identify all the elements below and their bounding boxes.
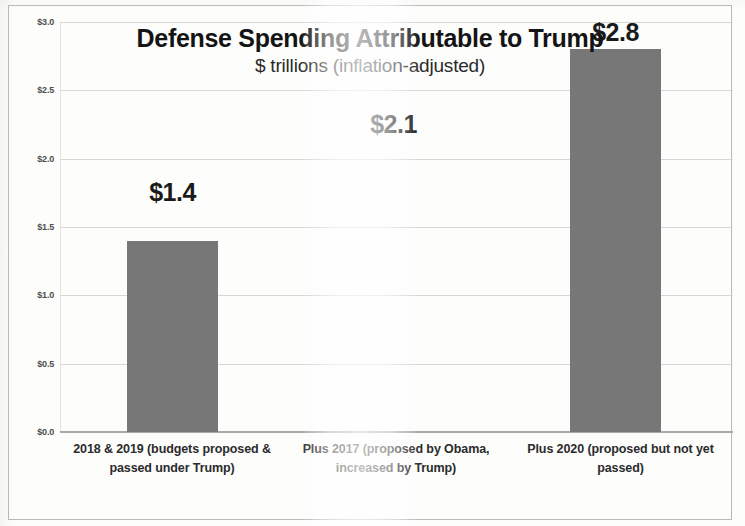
- y-tick-label: $2.5: [10, 85, 54, 95]
- category-label-plus-2020: Plus 2020 (proposed but not yet passed): [508, 440, 733, 478]
- y-axis-tick-labels: $3.0 $2.5 $2.0 $1.5 $1.0 $0.5 $0.0: [4, 22, 54, 432]
- y-tick-label: $1.5: [10, 222, 54, 232]
- bar-plus-2020[interactable]: [570, 49, 661, 432]
- y-tick-label: $0.5: [10, 359, 54, 369]
- x-axis-category-labels: 2018 & 2019 (budgets proposed & passed u…: [60, 440, 733, 520]
- category-label-plus-2017: Plus 2017 (proposed by Obama, increased …: [284, 440, 508, 478]
- plot-area: $1.4 $2.1 $2.8: [60, 22, 733, 432]
- y-tick-label: $1.0: [10, 290, 54, 300]
- y-tick-label: $2.0: [10, 154, 54, 164]
- category-label-2018-2019: 2018 & 2019 (budgets proposed & passed u…: [60, 440, 284, 478]
- scanned-chart-page: $3.0 $2.5 $2.0 $1.5 $1.0 $0.5 $0.0 $1.4 …: [0, 0, 745, 526]
- bar-value-label-2: $2.1: [348, 110, 439, 139]
- bar-value-label-1: $1.4: [127, 178, 218, 207]
- y-tick-label: $0.0: [10, 427, 54, 437]
- bar-value-label-3: $2.8: [570, 18, 661, 47]
- y-tick-label: $3.0: [10, 17, 54, 27]
- bar-2018-2019[interactable]: [127, 241, 218, 432]
